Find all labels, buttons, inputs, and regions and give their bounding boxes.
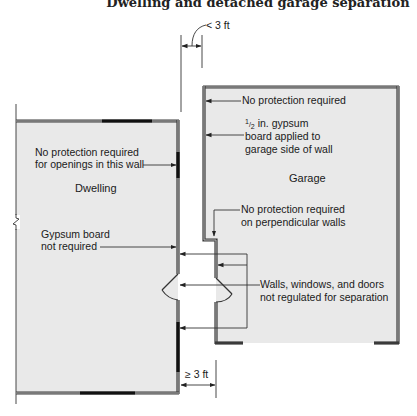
dwelling-note-openings-line1: No protection required (35, 146, 139, 158)
garage-note-gypsum-line1: 1/2 in. gypsum (245, 117, 309, 130)
gypsum-text: in. gypsum (255, 117, 309, 129)
garage-note-gypsum-line2: board applied to (245, 130, 320, 142)
garage: No protection required 1/2 in. gypsum bo… (180, 86, 399, 344)
garage-note-gypsum-line3: garage side of wall (245, 143, 333, 155)
dwelling-note-gypsum-line1: Gypsum board (41, 228, 110, 240)
garage-note-perpendicular-line2: on perpendicular walls (241, 216, 345, 228)
separation-diagram: Dwelling and detached garage separation … (0, 0, 417, 416)
bottom-dimension-label: ≥ 3 ft (185, 368, 208, 380)
break-line-icon (12, 214, 20, 230)
top-dimension-label: < 3 ft (206, 19, 230, 31)
garage-note-unregulated-line2: not regulated for separation (260, 291, 389, 303)
diagram-title: Dwelling and detached garage separation (106, 0, 410, 10)
dwelling-note-gypsum-line2: not required (41, 240, 97, 252)
garage-note-top: No protection required (242, 94, 346, 106)
dwelling-note-openings-line2: for openings in this wall (35, 158, 144, 170)
garage-note-unregulated-line1: Walls, windows, and doors (260, 278, 384, 290)
dwelling-label: Dwelling (75, 182, 117, 194)
dwelling: No protection required for openings in t… (12, 104, 179, 404)
bottom-dimension: ≥ 3 ft (181, 360, 216, 398)
garage-label: Garage (289, 172, 326, 184)
garage-note-perpendicular-line1: No protection required (241, 203, 345, 215)
